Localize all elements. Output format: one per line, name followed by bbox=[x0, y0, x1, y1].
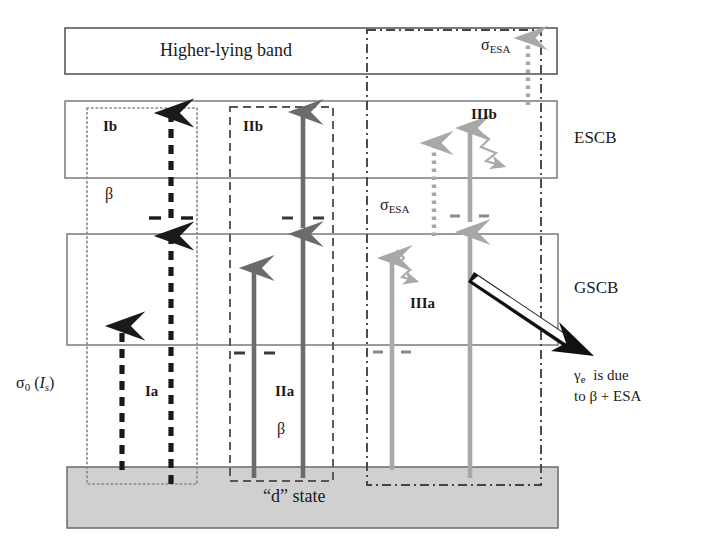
gamma-e-note: γe is due to β + ESA bbox=[574, 366, 641, 405]
group-box-I bbox=[87, 108, 197, 484]
beta-label-group-II: β bbox=[277, 420, 285, 438]
escb-side-label: ESCB bbox=[574, 128, 617, 148]
sigma-esa-top-subscript: ESA bbox=[490, 43, 511, 55]
sigma-esa-mid-subscript: ESA bbox=[389, 203, 410, 215]
gscb-side-label: GSCB bbox=[574, 278, 618, 298]
squiggle-emission-IIIa bbox=[397, 250, 416, 281]
diagram-canvas: Higher-lying band “d” state ESCB GSCB Ib… bbox=[0, 0, 708, 557]
squiggle-emission-IIIb bbox=[478, 131, 503, 166]
group-label-IIb: IIb bbox=[243, 118, 263, 135]
group-label-IIa: IIa bbox=[275, 383, 294, 400]
beta-label-group-I: β bbox=[105, 185, 113, 203]
group-label-Ia: Ia bbox=[145, 383, 158, 400]
higher-lying-band-label: Higher-lying band bbox=[160, 40, 292, 61]
sigma-zero-subscript: 0 bbox=[25, 381, 31, 393]
sigma-glyph-top: σ bbox=[481, 36, 490, 53]
gamma-e-note-line-1: γe is due bbox=[574, 366, 641, 387]
sigma-glyph: σ bbox=[16, 374, 25, 391]
gamma-subscript: e bbox=[581, 373, 586, 385]
group-label-IIIa: IIIa bbox=[410, 295, 435, 312]
sigma-glyph-mid: σ bbox=[380, 196, 389, 213]
sigma-zero-label: σ0(Is) bbox=[16, 374, 54, 393]
sigma-esa-mid-label: σESA bbox=[380, 196, 409, 215]
group-label-IIIb: IIIb bbox=[471, 106, 497, 123]
gamma-e-note-line-2: to β + ESA bbox=[574, 387, 641, 406]
sigma-esa-top-label: σESA bbox=[481, 36, 510, 55]
group-label-Ib: Ib bbox=[103, 118, 117, 135]
d-state-label: “d” state bbox=[263, 486, 325, 507]
gamma-glyph: γ bbox=[574, 367, 581, 383]
paren-close: ) bbox=[49, 374, 54, 391]
gamma-note-rest: is due bbox=[593, 367, 628, 383]
